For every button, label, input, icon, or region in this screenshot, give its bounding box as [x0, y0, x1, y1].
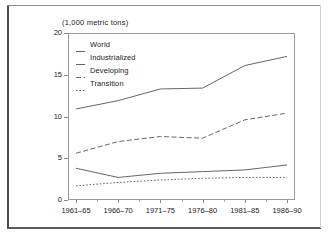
legend-item-transition: Transition — [76, 77, 136, 89]
legend-item-developing: Developing — [76, 64, 136, 76]
x-axis-tick-mark — [287, 200, 288, 203]
y-axis-tick-label: 15 — [38, 71, 62, 79]
y-axis-tick-label: 5 — [38, 154, 62, 162]
page-frame-left-rule — [7, 5, 9, 228]
legend-item-label: Industrialized — [90, 53, 136, 62]
x-axis-minor-tick-mark — [139, 200, 140, 202]
series-line-transition — [76, 177, 287, 185]
y-axis-tick-label: 20 — [38, 29, 62, 37]
series-line-developing — [76, 113, 287, 153]
legend-item-label: Transition — [90, 79, 124, 88]
x-axis-minor-tick-mark — [266, 200, 267, 202]
legend-item-label: World — [90, 40, 110, 49]
y-axis-tick-label: 10 — [38, 113, 62, 121]
legend-swatch-icon — [76, 41, 85, 48]
y-axis-tick-label: 0 — [38, 196, 62, 204]
x-axis-tick-mark — [76, 200, 77, 203]
chart-title: (1,000 metric tons) — [62, 18, 128, 27]
page-frame-bottom-rule — [7, 227, 321, 229]
x-axis-tick-mark — [245, 200, 246, 203]
x-axis-minor-tick-mark — [97, 200, 98, 202]
legend-item-industrialized: Industrialized — [76, 51, 136, 63]
x-axis-minor-tick-mark — [224, 200, 225, 202]
x-axis-tick-mark — [118, 200, 119, 203]
y-axis-tick-mark — [64, 200, 68, 201]
chart-legend: WorldIndustrializedDevelopingTransition — [76, 38, 136, 90]
legend-swatch-icon — [76, 67, 85, 74]
series-line-industrialized — [76, 165, 287, 178]
x-axis-tick-mark — [203, 200, 204, 203]
x-axis-tick-label: 1986–90 — [257, 206, 317, 215]
x-axis-minor-tick-mark — [182, 200, 183, 202]
legend-swatch-icon — [76, 80, 85, 87]
legend-item-label: Developing — [90, 66, 129, 75]
page-frame-top-rule — [7, 5, 321, 6]
legend-item-world: World — [76, 38, 136, 50]
legend-swatch-icon — [76, 54, 85, 61]
x-axis-tick-mark — [160, 200, 161, 203]
page-frame-right-rule — [320, 5, 321, 228]
chart-figure: (1,000 metric tons) 05101520 1961–651966… — [0, 0, 335, 238]
